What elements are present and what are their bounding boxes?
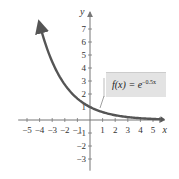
y-tick-label: 3 xyxy=(82,76,87,86)
x-tick-label: 5 xyxy=(151,125,156,135)
function-label-base: f(x) = e xyxy=(112,79,142,90)
y-tick-label: −2 xyxy=(76,141,86,151)
y-tick-label: 4 xyxy=(82,63,87,73)
y-tick-label: −3 xyxy=(76,154,86,164)
y-tick-label: 7 xyxy=(82,24,87,34)
y-tick-label: 5 xyxy=(82,50,87,60)
x-axis-label: x xyxy=(161,124,167,135)
function-label-box: f(x) = e−0.5x xyxy=(106,72,166,97)
y-axis-label: y xyxy=(79,6,85,17)
y-tick-label: 2 xyxy=(82,89,87,99)
x-tick-label: −2 xyxy=(60,125,70,135)
x-tick-label: −5 xyxy=(22,125,32,135)
x-tick-label: −4 xyxy=(35,125,45,135)
x-tick-label: 3 xyxy=(126,125,131,135)
legend-leader-line xyxy=(100,96,104,108)
x-tick-label: 4 xyxy=(138,125,143,135)
x-tick-label: 2 xyxy=(113,125,118,135)
x-tick-label: −3 xyxy=(47,125,57,135)
curve-right-arrow-icon xyxy=(161,116,165,122)
function-label: f(x) = e−0.5x xyxy=(112,79,156,90)
y-tick-label: 6 xyxy=(82,37,87,47)
x-tick-label: 1 xyxy=(100,125,105,135)
function-label-exponent: −0.5x xyxy=(142,79,156,85)
y-tick-label: −1 xyxy=(76,128,86,138)
